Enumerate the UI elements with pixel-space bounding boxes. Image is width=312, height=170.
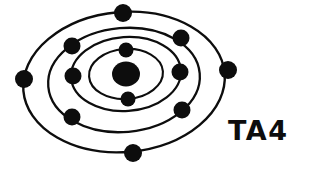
atom-diagram-svg: TA4 [0,0,312,170]
electron-shell1-bottom [121,92,136,107]
electron-shell3-lower-left [64,109,81,126]
electron-shell2-left [65,68,82,85]
electron-shell3-upper-right [173,30,190,47]
electron-shell2-right [172,64,189,81]
nucleus [112,62,140,87]
electron-shell4-right [219,61,237,79]
electron-shell4-left [15,70,33,88]
electron-shell3-upper-left [64,38,81,55]
atom-diagram-canvas: TA4 [0,0,312,170]
electron-shell3-lower-right [174,102,191,119]
handwritten-label: TA4 [228,115,289,146]
electron-shell4-bottom [124,144,142,162]
electron-shell4-top [114,4,132,22]
electron-shell1-top [119,43,134,58]
